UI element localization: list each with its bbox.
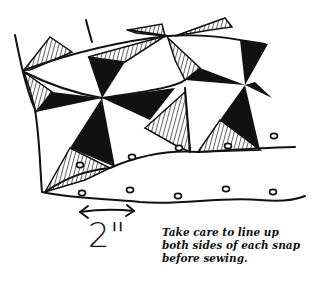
snap-icon bbox=[77, 162, 84, 167]
snap-icon bbox=[271, 133, 278, 138]
snap-icon bbox=[223, 186, 230, 191]
caption-line: before sewing. bbox=[162, 252, 321, 265]
snap-icon bbox=[127, 187, 134, 192]
snap-icon bbox=[270, 189, 277, 194]
snap-icon bbox=[176, 145, 183, 150]
caption-line: Take care to line up bbox=[162, 226, 321, 239]
snap-icon bbox=[129, 154, 136, 159]
snap-icon bbox=[175, 193, 182, 198]
measurement-label: 2" bbox=[88, 218, 125, 252]
snap-icon bbox=[79, 190, 86, 195]
caption-line: both sides of each snap bbox=[162, 239, 321, 252]
caption: Take care to line up both sides of each … bbox=[162, 226, 321, 265]
snap-icon bbox=[225, 143, 232, 148]
